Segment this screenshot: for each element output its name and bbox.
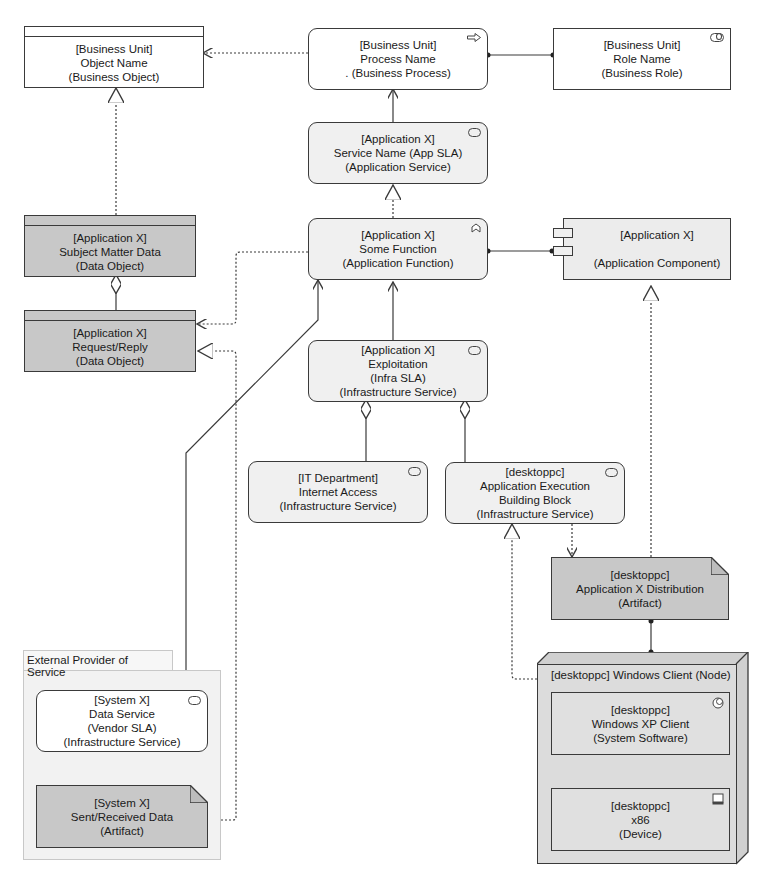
data-request-line-2: Request/Reply xyxy=(72,340,147,354)
application-component[interactable]: [Application X] (Application Component) xyxy=(563,218,731,280)
device-line-2: x86 xyxy=(631,813,650,827)
infrastructure-service-exploitation[interactable]: [Application X] Exploitation (Infra SLA)… xyxy=(308,340,488,402)
business-object-line-3: (Business Object) xyxy=(69,70,160,84)
business-role-line-2: Role Name xyxy=(613,52,671,66)
application-function[interactable]: [Application X] Some Function (Applicati… xyxy=(308,218,488,280)
data-service-line-2: Data Service xyxy=(89,707,155,721)
data-subject-line-3: (Data Object) xyxy=(76,259,144,273)
internet-access-line-2: Internet Access xyxy=(299,485,378,499)
device-line-3: (Device) xyxy=(619,827,662,841)
aebb-line-2: Application Execution xyxy=(480,479,590,493)
business-process-line-2: Process Name xyxy=(360,52,435,66)
business-role-line-3: (Business Role) xyxy=(601,66,682,80)
sent-received-line-3: (Artifact) xyxy=(100,824,143,838)
data-service-line-3: (Vendor SLA) xyxy=(87,721,156,735)
application-component-line-1: [Application X] xyxy=(620,228,694,242)
system-software-line-1: [desktoppc] xyxy=(611,703,670,717)
data-request-line-3: (Data Object) xyxy=(76,354,144,368)
role-icon xyxy=(710,33,724,42)
internet-access-line-3: (Infrastructure Service) xyxy=(280,499,397,513)
process-arrow-icon xyxy=(467,33,481,42)
data-subject-line-1: [Application X] xyxy=(73,231,147,245)
node-title: [desktoppc] Windows Client (Node) xyxy=(551,669,731,681)
exploitation-line-1: [Application X] xyxy=(361,343,435,357)
artifact-fold-icon xyxy=(190,785,208,803)
business-object[interactable]: [Business Unit] Object Name (Business Ob… xyxy=(24,26,204,88)
data-service-line-4: (Infrastructure Service) xyxy=(64,735,181,749)
artifact-application-x-distribution[interactable]: [desktoppc] Application X Distribution (… xyxy=(551,557,729,620)
exploitation-line-4: (Infrastructure Service) xyxy=(340,385,457,399)
application-service[interactable]: [Application X] Service Name (App SLA) (… xyxy=(308,122,488,184)
business-role[interactable]: [Business Unit] Role Name (Business Role… xyxy=(553,28,731,90)
business-process[interactable]: [Business Unit] Process Name . (Business… xyxy=(308,28,488,90)
artifact-sent-received-data[interactable]: [System X] Sent/Received Data (Artifact) xyxy=(36,785,208,848)
device-line-1: [desktoppc] xyxy=(611,799,670,813)
exploitation-line-2: Exploitation xyxy=(368,357,427,371)
infrastructure-service-app-execution-building-block[interactable]: [desktoppc] Application Execution Buildi… xyxy=(445,462,625,524)
application-service-line-1: [Application X] xyxy=(361,132,435,146)
component-icon-tab-top xyxy=(553,228,573,238)
business-object-line-2: Object Name xyxy=(80,56,147,70)
service-icon xyxy=(188,696,201,705)
business-process-line-3: . (Business Process) xyxy=(345,66,450,80)
device-x86[interactable]: [desktoppc] x86 (Device) xyxy=(551,788,730,851)
distribution-line-1: [desktoppc] xyxy=(611,568,670,582)
system-software-icon xyxy=(712,697,724,709)
component-icon-tab-bottom xyxy=(553,246,573,256)
service-icon xyxy=(408,467,421,476)
infrastructure-service-data-service[interactable]: [System X] Data Service (Vendor SLA) (In… xyxy=(36,690,208,752)
application-service-line-2: Service Name (App SLA) xyxy=(334,146,462,160)
edge-function-access-request xyxy=(197,252,308,324)
data-object-request-reply[interactable]: [Application X] Request/Reply (Data Obje… xyxy=(24,310,196,372)
data-subject-line-2: Subject Matter Data xyxy=(59,245,161,259)
sent-received-line-1: [System X] xyxy=(94,796,150,810)
internet-access-line-1: [IT Department] xyxy=(298,471,378,485)
business-role-line-1: [Business Unit] xyxy=(604,38,681,52)
aebb-line-4: (Infrastructure Service) xyxy=(477,507,594,521)
data-object-subject-matter[interactable]: [Application X] Subject Matter Data (Dat… xyxy=(24,215,196,277)
system-software-line-3: (System Software) xyxy=(593,731,688,745)
service-icon xyxy=(468,346,481,355)
exploitation-line-3: (Infra SLA) xyxy=(370,371,426,385)
business-process-line-1: [Business Unit] xyxy=(360,38,437,52)
infrastructure-service-internet-access[interactable]: [IT Department] Internet Access (Infrast… xyxy=(248,461,428,523)
artifact-fold-icon xyxy=(711,557,729,575)
service-icon xyxy=(468,128,481,137)
distribution-line-2: Application X Distribution xyxy=(576,582,704,596)
sent-received-line-2: Sent/Received Data xyxy=(71,810,173,824)
application-function-line-2: Some Function xyxy=(359,242,436,256)
device-icon xyxy=(712,793,724,805)
service-icon xyxy=(605,468,618,477)
business-object-line-1: [Business Unit] xyxy=(76,42,153,56)
data-request-line-1: [Application X] xyxy=(73,326,147,340)
application-function-line-1: [Application X] xyxy=(361,228,435,242)
edge-node-realizes-aebb xyxy=(512,524,537,679)
application-component-line-3: (Application Component) xyxy=(594,256,721,270)
group-external-provider-label: External Provider of Service xyxy=(23,650,173,671)
application-function-line-3: (Application Function) xyxy=(342,256,453,270)
aebb-line-3: Building Block xyxy=(499,493,571,507)
system-software-line-2: Windows XP Client xyxy=(592,717,690,731)
distribution-line-3: (Artifact) xyxy=(618,596,661,610)
function-chevron-icon xyxy=(471,223,481,233)
system-software-windows-xp[interactable]: [desktoppc] Windows XP Client (System So… xyxy=(551,692,730,755)
data-service-line-1: [System X] xyxy=(94,693,150,707)
application-service-line-3: (Application Service) xyxy=(345,160,450,174)
aebb-line-1: [desktoppc] xyxy=(506,465,565,479)
